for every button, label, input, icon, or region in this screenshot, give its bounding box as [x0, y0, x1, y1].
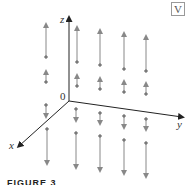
figure-caption: FIGURE 3 [7, 178, 57, 185]
x-axis-label: x [8, 139, 14, 151]
y-axis-label: y [176, 118, 182, 130]
z-axis-label: z [59, 13, 65, 25]
origin-label: 0 [60, 90, 66, 102]
vector-field-diagram: z 0 y x [0, 0, 195, 185]
y-axis [69, 101, 182, 117]
x-axis [19, 101, 69, 146]
